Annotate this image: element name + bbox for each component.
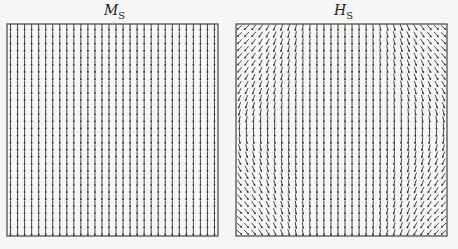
vector-field-magnetization: [0, 0, 229, 249]
panel-magnetization: MS: [0, 0, 229, 249]
vector-field-stray: [229, 0, 458, 249]
panel-stray-field: HS: [229, 0, 458, 249]
